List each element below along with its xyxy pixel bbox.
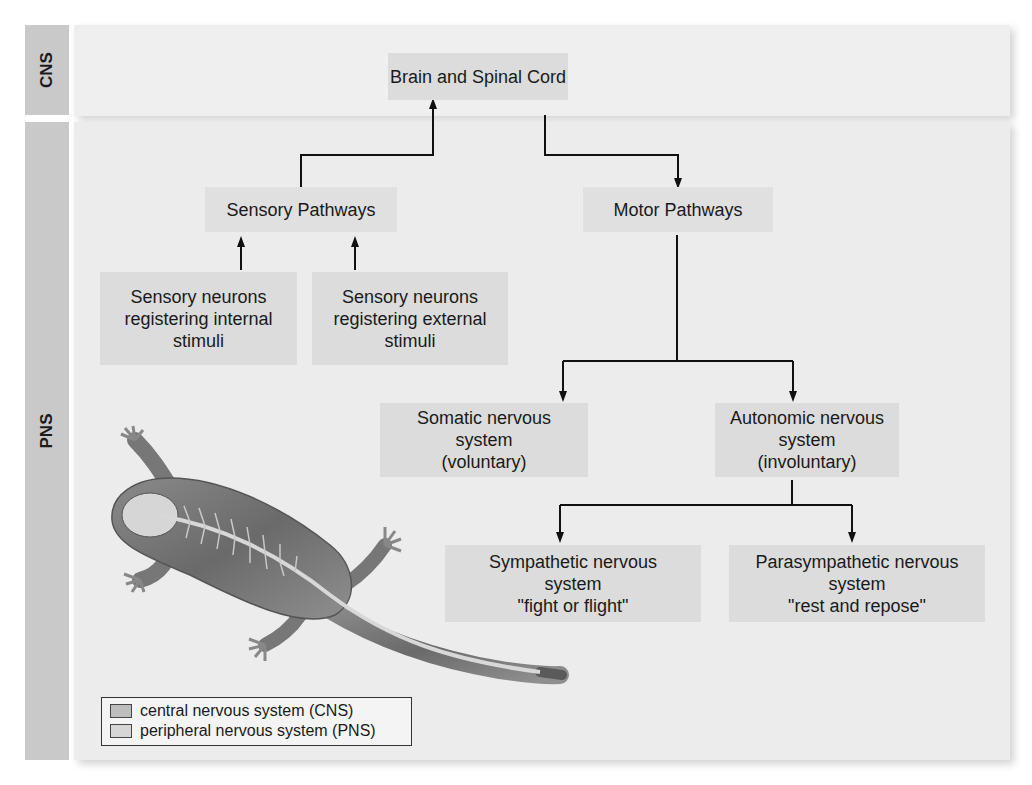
node-somatic: Somatic nervous system (voluntary) bbox=[380, 403, 588, 477]
node-sensory-pathways-label: Sensory Pathways bbox=[226, 199, 375, 221]
cns-swatch-icon bbox=[110, 704, 132, 718]
legend-item-pns: peripheral nervous system (PNS) bbox=[110, 721, 411, 741]
flow-arrows bbox=[0, 0, 1032, 785]
node-motor-pathways: Motor Pathways bbox=[583, 187, 773, 232]
node-autonomic-label: Autonomic nervous system (involuntary) bbox=[730, 407, 884, 473]
sensory-to-brain-arrow bbox=[301, 103, 433, 187]
brain-to-motor-arrow bbox=[545, 115, 678, 183]
legend: central nervous system (CNS) peripheral … bbox=[101, 697, 412, 746]
pns-swatch-icon bbox=[110, 724, 132, 738]
node-brain-label: Brain and Spinal Cord bbox=[390, 66, 566, 88]
node-autonomic: Autonomic nervous system (involuntary) bbox=[715, 403, 899, 477]
arrowhead-down-somatic bbox=[559, 391, 567, 402]
legend-cns-label: central nervous system (CNS) bbox=[140, 701, 353, 721]
node-sensory-external-label: Sensory neurons registering external sti… bbox=[333, 286, 486, 352]
node-sympathetic: Sympathetic nervous system "fight or fli… bbox=[445, 545, 701, 622]
node-parasympathetic-label: Parasympathetic nervous system "rest and… bbox=[755, 551, 958, 617]
arrowhead-down-autonomic bbox=[789, 391, 797, 402]
arrowhead-down-sympathetic bbox=[556, 532, 564, 543]
node-sensory-pathways: Sensory Pathways bbox=[205, 187, 397, 232]
arrowhead-down-parasympathetic bbox=[848, 532, 856, 543]
node-sensory-internal-label: Sensory neurons registering internal sti… bbox=[124, 286, 272, 352]
node-sensory-internal: Sensory neurons registering internal sti… bbox=[100, 272, 297, 365]
legend-item-cns: central nervous system (CNS) bbox=[110, 701, 411, 721]
node-sensory-external: Sensory neurons registering external sti… bbox=[312, 272, 508, 365]
node-motor-pathways-label: Motor Pathways bbox=[613, 199, 742, 221]
legend-pns-label: peripheral nervous system (PNS) bbox=[140, 721, 376, 741]
node-somatic-label: Somatic nervous system (voluntary) bbox=[417, 407, 551, 473]
node-sympathetic-label: Sympathetic nervous system "fight or fli… bbox=[489, 551, 657, 617]
node-parasympathetic: Parasympathetic nervous system "rest and… bbox=[729, 545, 985, 622]
arrowhead-up-sensory-external bbox=[351, 236, 359, 247]
arrowhead-up-sensory-internal bbox=[237, 236, 245, 247]
node-brain-spinal-cord: Brain and Spinal Cord bbox=[388, 53, 568, 100]
